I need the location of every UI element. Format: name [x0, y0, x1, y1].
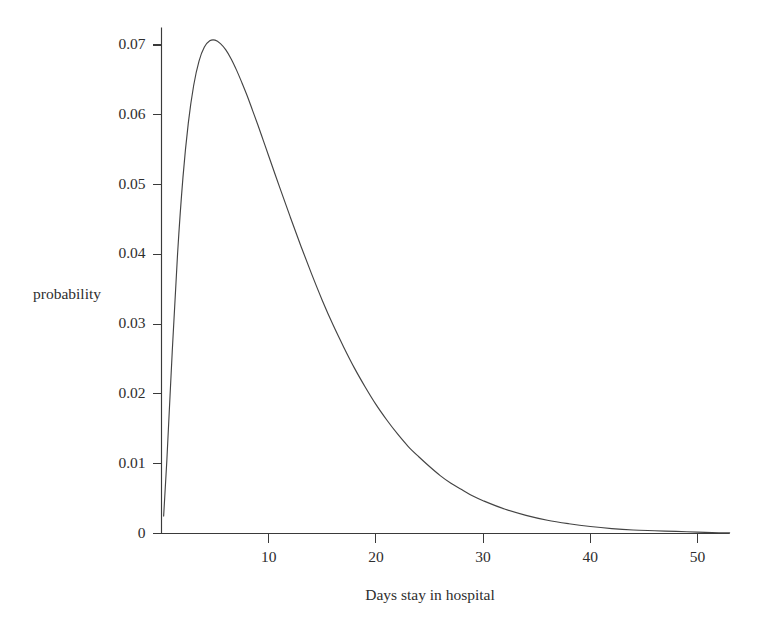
data-series-group — [164, 40, 730, 533]
y-axis-tick-label: 0.06 — [118, 105, 145, 122]
x-axis-tick-label: 20 — [368, 548, 384, 565]
probability-density-curve — [164, 40, 730, 533]
y-axis-tick-label: 0.03 — [118, 314, 145, 331]
y-axis-tick-label: 0.07 — [118, 35, 145, 52]
x-axis-tick-label: 30 — [475, 548, 491, 565]
y-axis-tick-label: 0.04 — [118, 244, 145, 261]
y-axis-tick-label: 0 — [138, 524, 146, 541]
y-axis-tick-label: 0.05 — [118, 175, 145, 192]
y-axis-title: probability — [33, 285, 101, 302]
x-axis: 1020304050 — [162, 534, 730, 565]
y-axis: 00.010.020.030.040.050.060.07 — [118, 28, 161, 541]
chart-canvas: 00.010.020.030.040.050.060.07 1020304050… — [0, 0, 764, 630]
x-axis-tick-label: 10 — [261, 548, 277, 565]
x-axis-title: Days stay in hospital — [365, 586, 495, 603]
y-axis-tick-label: 0.01 — [118, 454, 145, 471]
probability-density-chart: 00.010.020.030.040.050.060.07 1020304050… — [0, 0, 764, 630]
x-axis-tick-label: 40 — [583, 548, 599, 565]
x-axis-tick-label: 50 — [690, 548, 706, 565]
y-axis-tick-label: 0.02 — [118, 384, 145, 401]
